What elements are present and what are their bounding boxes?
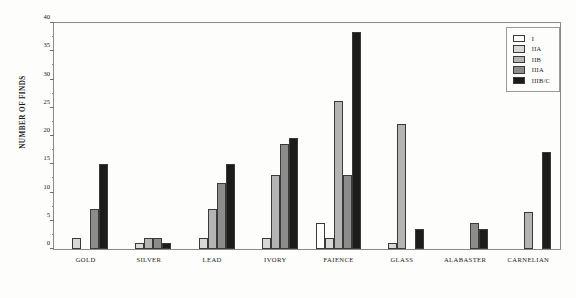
legend-item: IIB [513,54,550,65]
bar-group: ALABASTER [434,23,497,249]
legend-label: IIIB/C [532,77,550,84]
x-axis-tick-label: SILVER [136,256,161,263]
x-axis-tick-label: ALABASTER [444,256,486,263]
y-axis-label: NUMBER OF FINDS [19,47,27,177]
y-axis-tick-label: 0 [34,239,50,246]
y-axis-tick-label: 5 [34,210,50,217]
bar-group-bars [379,23,424,249]
y-axis-tick-label: 10 [34,182,50,189]
legend: IIIAIIBIIIAIIIB/C [506,27,560,92]
x-axis-tick-label: FAIENCE [324,256,354,263]
bar [208,209,217,249]
legend-item: I [513,33,550,44]
bar-group-bars [316,23,361,249]
legend-label: IIIA [532,66,544,73]
bar [90,209,99,249]
bar [135,243,144,249]
legend-swatch [513,45,525,53]
y-axis-tick-label: 25 [34,97,50,104]
bar-groups: GOLDSILVERLEADIVORYFAIENCEGLASSALABASTER… [54,23,560,249]
bar [162,243,171,249]
bar [217,183,226,249]
y-axis-tick-label: 15 [34,154,50,161]
bar [99,164,108,250]
legend-swatch [513,77,525,85]
bar-group: GLASS [370,23,433,249]
bar [343,175,352,249]
legend-item: IIA [513,44,550,55]
bar-group-bars [253,23,298,249]
legend-item: IIIA [513,65,550,76]
bar [199,238,208,249]
bar-group: SILVER [117,23,180,249]
legend-label: IIA [532,45,542,52]
bar-group-bars [126,23,171,249]
legend-label: I [532,35,534,42]
bar-group-bars [63,23,108,249]
bar [352,32,361,249]
bar [153,238,162,249]
bar [325,238,334,249]
bar [470,223,479,249]
x-axis-tick-label: CARNELIAN [508,256,550,263]
bar-group: FAIENCE [307,23,370,249]
bar [415,229,424,249]
bar [72,238,81,249]
x-axis-tick-label: GOLD [76,256,96,263]
bar-group: LEAD [181,23,244,249]
bar [271,175,280,249]
bar [397,124,406,249]
bar [479,229,488,249]
bar [262,238,271,249]
legend-swatch [513,35,525,43]
legend-swatch [513,66,525,74]
bar [144,238,153,249]
bar [226,164,235,250]
x-axis-tick-label: GLASS [390,256,413,263]
y-axis-tick-label: 30 [34,69,50,76]
plot-area: 0510152025303540 GOLDSILVERLEADIVORYFAIE… [53,22,561,250]
bar-group-bars [443,23,488,249]
bar [280,144,289,249]
y-axis-tick-label: 20 [34,126,50,133]
bar [316,223,325,249]
bar [289,138,298,249]
legend-swatch [513,56,525,64]
bar [334,101,343,249]
bar-group: IVORY [244,23,307,249]
x-axis-tick-label: IVORY [264,256,287,263]
bar-group: GOLD [54,23,117,249]
bar [542,152,551,249]
bar [524,212,533,249]
x-axis-tick-label: LEAD [203,256,222,263]
y-axis-tick-label: 35 [34,41,50,48]
y-axis-label-container: NUMBER OF FINDS [6,0,28,298]
legend-label: IIB [532,56,541,63]
legend-item: IIIB/C [513,75,550,86]
bar-chart: NUMBER OF FINDS 0510152025303540 GOLDSIL… [0,0,576,298]
bar [388,243,397,249]
y-axis-tick-label: 40 [34,13,50,20]
bar-group-bars [190,23,235,249]
